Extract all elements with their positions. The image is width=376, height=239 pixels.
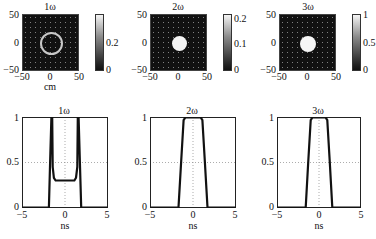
x-tick: 0 (63, 210, 68, 220)
colorbar-tick: 0.2 (106, 38, 119, 48)
x-tick: −50 (142, 72, 158, 82)
colorbar-tick: 0.5 (363, 38, 376, 48)
disk-spot (172, 36, 187, 51)
colorbar (352, 14, 361, 71)
x-axis-label: ns (189, 221, 198, 231)
y-tick: 50 (137, 10, 147, 20)
x-tick: 0 (191, 210, 196, 220)
pulse-plot (150, 117, 236, 208)
colorbar (95, 14, 104, 71)
y-tick: 0 (142, 38, 147, 48)
panel-title: 2ω (186, 106, 198, 116)
y-tick: 0.5 (262, 157, 275, 167)
colorbar-tick: 0 (106, 65, 111, 75)
x-tick: 50 (202, 72, 212, 82)
colorbar-tick: 0.1 (234, 39, 247, 49)
colorbar-tick: 0.2 (234, 14, 247, 24)
y-tick: 1 (14, 113, 19, 123)
colorbar-tick: 0 (234, 65, 239, 75)
x-tick: 5 (233, 210, 238, 220)
y-tick: 1 (142, 113, 147, 123)
x-tick: 50 (331, 72, 341, 82)
beam-image (22, 14, 79, 71)
x-tick: 0 (176, 72, 181, 82)
colorbar (223, 14, 232, 71)
y-tick: 0 (14, 38, 19, 48)
pulse-plot (22, 117, 108, 208)
x-tick: −50 (14, 72, 30, 82)
panel-title: 2ω (172, 2, 184, 12)
panel-title: 3ω (302, 2, 314, 12)
beam-image (279, 14, 336, 71)
x-tick: −5 (17, 210, 28, 220)
y-tick: 50 (266, 10, 276, 20)
y-tick: 0 (271, 38, 276, 48)
colorbar-tick: 1 (363, 10, 368, 20)
x-axis-label: cm (44, 82, 56, 92)
x-tick: 0 (317, 210, 322, 220)
x-axis-label: ns (315, 221, 324, 231)
panel-title: 1ω (58, 106, 70, 116)
pulse-plot (277, 117, 361, 208)
panel-title: 1ω (44, 2, 56, 12)
x-axis-label: ns (61, 221, 70, 231)
ring-spot (40, 32, 63, 55)
beam-image (150, 14, 207, 71)
x-tick: 50 (74, 72, 84, 82)
y-tick: 0.5 (135, 157, 148, 167)
x-tick: 0 (305, 72, 310, 82)
x-tick: 5 (105, 210, 110, 220)
disk-spot (300, 36, 316, 52)
x-tick: −5 (145, 210, 156, 220)
colorbar-tick: 0 (363, 65, 368, 75)
x-tick: 5 (359, 210, 364, 220)
y-tick: 50 (9, 10, 19, 20)
x-tick: −5 (272, 210, 283, 220)
y-tick: 0.5 (7, 157, 20, 167)
panel-title: 3ω (312, 106, 324, 116)
x-tick: −50 (271, 72, 287, 82)
y-tick: 1 (269, 113, 274, 123)
